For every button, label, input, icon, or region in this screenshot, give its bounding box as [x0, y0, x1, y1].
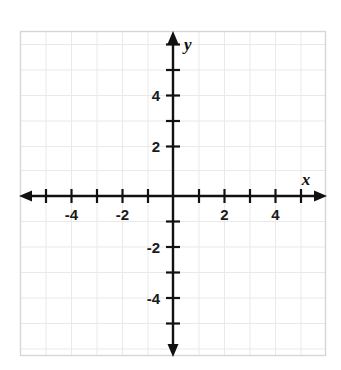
y-axis-label: y — [182, 35, 192, 54]
y-tick-label-4: 4 — [152, 87, 161, 104]
x-tick-label-2: 2 — [220, 206, 228, 223]
x-tick-label-4: 4 — [271, 206, 280, 223]
x-axis-label: x — [301, 170, 311, 189]
y-tick-label-minus-2: -2 — [147, 239, 160, 256]
coordinate-plane-figure: -4 -2 2 4 4 2 -2 -4 y x — [0, 0, 341, 370]
y-tick-label-minus-4: -4 — [147, 290, 161, 307]
coordinate-plane-canvas: -4 -2 2 4 4 2 -2 -4 y x — [0, 0, 341, 370]
x-tick-label-minus-4: -4 — [65, 206, 79, 223]
y-tick-label-2: 2 — [152, 138, 160, 155]
x-tick-label-minus-2: -2 — [116, 206, 129, 223]
